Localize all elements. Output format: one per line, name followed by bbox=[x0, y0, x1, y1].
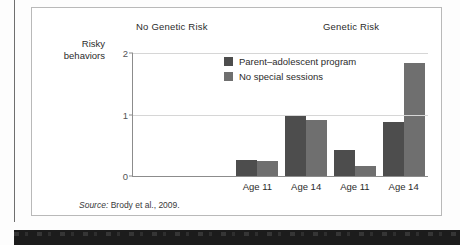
bar bbox=[236, 160, 257, 176]
figure-source-line: Source: Brody et al., 2009. bbox=[79, 200, 180, 210]
bar bbox=[334, 150, 355, 176]
y-tick-mark-2 bbox=[129, 53, 133, 54]
source-citation: Brody et al., 2009. bbox=[108, 200, 179, 210]
bar bbox=[257, 161, 278, 176]
y-axis-label-line2: behaviors bbox=[50, 50, 105, 62]
y-tick-mark-1 bbox=[129, 114, 133, 115]
panel-title-genetic-risk: Genetic Risk bbox=[323, 21, 379, 32]
gridline-2 bbox=[133, 53, 428, 54]
figure-frame: No Genetic Risk Genetic Risk Risky behav… bbox=[31, 7, 442, 216]
x-axis-label: Age 14 bbox=[389, 181, 419, 192]
legend-item-no-special-sessions: No special sessions bbox=[224, 71, 356, 82]
legend-swatch-icon-dark bbox=[224, 57, 233, 66]
legend-label-parent-adolescent-program: Parent–adolescent program bbox=[239, 56, 356, 67]
chart-legend: Parent–adolescent program No special ses… bbox=[224, 56, 356, 86]
bar bbox=[404, 63, 425, 176]
legend-label-no-special-sessions: No special sessions bbox=[239, 71, 323, 82]
bar bbox=[383, 122, 404, 176]
y-tick-label-0: 0 bbox=[115, 171, 128, 182]
page-left-rule bbox=[14, 0, 15, 222]
gridline-1 bbox=[133, 115, 428, 116]
y-axis-label: Risky behaviors bbox=[50, 38, 105, 61]
legend-swatch-icon-light bbox=[224, 72, 233, 81]
bar bbox=[306, 120, 327, 176]
page-bottom-band-texture bbox=[14, 232, 460, 236]
legend-item-parent-adolescent-program: Parent–adolescent program bbox=[224, 56, 356, 67]
y-tick-label-1: 1 bbox=[115, 109, 128, 120]
x-axis-label: Age 14 bbox=[291, 181, 321, 192]
figure-page: No Genetic Risk Genetic Risk Risky behav… bbox=[0, 0, 460, 245]
panel-title-no-genetic-risk: No Genetic Risk bbox=[136, 21, 208, 32]
x-axis-label: Age 11 bbox=[243, 181, 272, 192]
bar bbox=[355, 166, 376, 176]
y-axis-label-line1: Risky bbox=[50, 38, 105, 50]
source-prefix: Source: bbox=[79, 200, 108, 210]
x-axis-label: Age 11 bbox=[340, 181, 369, 192]
bar bbox=[285, 115, 306, 177]
page-bottom-band bbox=[14, 230, 460, 245]
y-tick-mark-0 bbox=[129, 176, 133, 177]
y-tick-label-2: 2 bbox=[115, 48, 128, 59]
